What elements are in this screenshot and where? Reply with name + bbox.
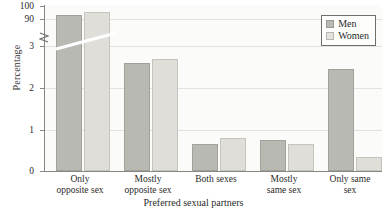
x-category-label-2-line1: Both sexes bbox=[180, 174, 252, 185]
x-category-label-1: Mostly opposite sex bbox=[112, 174, 184, 196]
y-tick-label-2: 2 bbox=[29, 83, 34, 93]
bar-women-mostly-same-sex bbox=[288, 144, 314, 171]
legend-swatch-men-icon bbox=[326, 20, 334, 28]
x-category-label-2: Both sexes bbox=[180, 174, 252, 185]
x-category-label-3: Mostly same sex bbox=[248, 174, 320, 196]
bar-men-both-sexes bbox=[192, 144, 218, 171]
bar-men-mostly-opposite-sex bbox=[124, 63, 150, 171]
chart-figure: Percentage 100 90 3 2 1 0 bbox=[0, 0, 387, 213]
x-axis-title: Preferred sexual partners bbox=[0, 197, 387, 208]
legend-swatch-women-icon bbox=[326, 32, 334, 40]
y-tick-label-90: 90 bbox=[25, 14, 35, 24]
legend: Men Women bbox=[321, 15, 376, 46]
legend-label-men: Men bbox=[338, 18, 356, 30]
x-axis-line bbox=[44, 171, 382, 172]
x-category-label-1-line2: opposite sex bbox=[112, 185, 184, 196]
bar-women-mostly-opposite-sex bbox=[152, 59, 178, 172]
bar-women-only-opposite-sex bbox=[84, 12, 110, 171]
legend-item-women: Women bbox=[326, 30, 369, 42]
axis-break-icon bbox=[39, 32, 50, 45]
x-category-label-0-line1: Only bbox=[44, 174, 116, 185]
bar-women-both-sexes bbox=[220, 138, 246, 171]
x-category-label-1-line1: Mostly bbox=[112, 174, 184, 185]
x-category-label-3-line1: Mostly bbox=[248, 174, 320, 185]
x-category-label-4-line2: sex bbox=[314, 185, 386, 196]
y-tick-label-1: 1 bbox=[29, 125, 34, 135]
y-tick-90: 90 bbox=[40, 19, 44, 20]
y-axis-title: Percentage bbox=[11, 18, 22, 118]
y-tick-label-3: 3 bbox=[29, 41, 34, 51]
bar-men-only-opposite-sex bbox=[56, 15, 82, 171]
y-tick-3: 3 bbox=[40, 46, 44, 47]
y-axis-line bbox=[44, 5, 45, 172]
plot-area: 100 90 3 2 1 0 bbox=[44, 5, 382, 172]
bar-men-only-same-sex bbox=[328, 69, 354, 171]
y-tick-0: 0 bbox=[40, 171, 44, 172]
y-tick-100: 100 bbox=[40, 6, 44, 7]
y-tick-2: 2 bbox=[40, 88, 44, 89]
y-tick-label-0: 0 bbox=[29, 166, 34, 176]
x-category-label-4-line1: Only same bbox=[314, 174, 386, 185]
y-tick-label-100: 100 bbox=[20, 1, 34, 11]
y-tick-1: 1 bbox=[40, 130, 44, 131]
legend-label-women: Women bbox=[338, 30, 369, 42]
bar-women-only-same-sex bbox=[356, 157, 382, 171]
bar-men-mostly-same-sex bbox=[260, 140, 286, 171]
x-category-label-0: Only opposite sex bbox=[44, 174, 116, 196]
legend-item-men: Men bbox=[326, 18, 369, 30]
x-category-label-3-line2: same sex bbox=[248, 185, 320, 196]
x-category-label-4: Only same sex bbox=[314, 174, 386, 196]
x-category-label-0-line2: opposite sex bbox=[44, 185, 116, 196]
